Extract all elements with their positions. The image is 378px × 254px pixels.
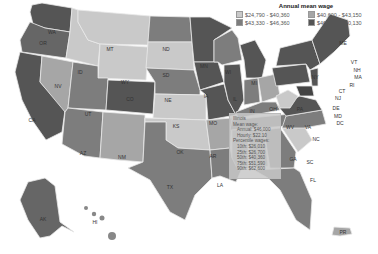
svg-text:CT: CT <box>339 88 346 94</box>
svg-text:PR: PR <box>340 229 347 235</box>
svg-text:NV: NV <box>55 83 63 89</box>
svg-text:CA: CA <box>29 117 37 123</box>
state-ks[interactable] <box>153 94 206 120</box>
svg-text:NM: NM <box>118 154 126 160</box>
legend-swatch-1 <box>236 11 243 18</box>
legend-label-1: $24,790 - $40,360 <box>245 12 290 18</box>
svg-text:IL: IL <box>233 96 237 102</box>
legend-swatch-2 <box>308 11 315 18</box>
svg-text:IA: IA <box>204 93 209 99</box>
svg-text:DE: DE <box>333 105 341 111</box>
svg-text:FL: FL <box>310 177 316 183</box>
svg-text:SC: SC <box>307 159 314 165</box>
svg-text:MT: MT <box>106 46 113 52</box>
svg-text:HI: HI <box>93 219 98 225</box>
us-map: WA OR CA NV ID MT WY UT CO AZ NM ND SD N… <box>0 0 378 254</box>
state-sd[interactable] <box>146 42 194 70</box>
legend-swatch-4 <box>308 19 315 26</box>
legend-label-4: $46,480 - $60,130 <box>317 20 362 26</box>
northeast-callouts: VT NH MA RI CT NJ DE MD DC <box>333 59 363 126</box>
svg-text:WA: WA <box>48 29 57 35</box>
legend-item-1[interactable]: $24,790 - $40,360 <box>236 11 304 18</box>
svg-text:OR: OR <box>39 40 47 46</box>
svg-text:MN: MN <box>200 63 208 69</box>
svg-text:ME: ME <box>339 40 347 46</box>
legend-item-4[interactable]: $46,480 - $60,130 <box>308 19 376 26</box>
svg-text:LA: LA <box>217 182 224 188</box>
legend-label-3: $43,330 - $46,360 <box>245 20 290 26</box>
svg-text:AZ: AZ <box>80 150 86 156</box>
tooltip-p90: 90th: $62,600 <box>233 166 277 172</box>
svg-text:MI: MI <box>251 80 257 86</box>
svg-text:NE: NE <box>165 97 173 103</box>
svg-text:WY: WY <box>121 79 130 85</box>
state-mi[interactable] <box>240 40 266 78</box>
svg-text:NC: NC <box>312 136 320 142</box>
svg-text:MO: MO <box>209 120 217 126</box>
state-nd[interactable] <box>148 16 192 42</box>
svg-text:ND: ND <box>162 46 170 52</box>
svg-text:NH: NH <box>353 67 361 73</box>
svg-text:DC: DC <box>336 120 344 126</box>
svg-text:GA: GA <box>289 156 297 162</box>
svg-text:RI: RI <box>350 82 355 88</box>
legend-label-2: $40,600 - $43,150 <box>317 12 362 18</box>
legend-item-2[interactable]: $40,600 - $43,150 <box>308 11 376 18</box>
svg-text:WV: WV <box>286 124 295 130</box>
legend: Annual mean wage $24,790 - $40,360 $40,6… <box>236 3 376 26</box>
state-hi[interactable] <box>84 206 116 240</box>
svg-text:AK: AK <box>40 216 47 222</box>
svg-text:UT: UT <box>85 111 92 117</box>
legend-title: Annual mean wage <box>236 3 376 9</box>
svg-text:MA: MA <box>354 74 362 80</box>
svg-text:KS: KS <box>173 123 180 129</box>
svg-text:TX: TX <box>167 184 174 190</box>
tooltip-annual: Annual: $46,000 <box>233 127 277 133</box>
svg-text:VT: VT <box>351 59 357 65</box>
svg-text:WI: WI <box>225 69 231 75</box>
svg-text:CO: CO <box>126 96 134 102</box>
svg-text:PA: PA <box>297 106 304 112</box>
state-mt[interactable] <box>78 10 150 45</box>
svg-text:ID: ID <box>78 69 83 75</box>
svg-text:SD: SD <box>163 72 170 78</box>
svg-text:OH: OH <box>269 106 277 112</box>
svg-text:AR: AR <box>210 153 217 159</box>
legend-swatch-3 <box>236 19 243 26</box>
state-md[interactable] <box>296 86 314 96</box>
state-pa[interactable] <box>272 64 310 86</box>
state-ak[interactable] <box>20 178 74 238</box>
legend-item-3[interactable]: $43,330 - $46,360 <box>236 19 304 26</box>
svg-text:VA: VA <box>305 124 312 130</box>
svg-text:NJ: NJ <box>335 95 342 101</box>
svg-text:NY: NY <box>312 74 320 80</box>
svg-text:OK: OK <box>176 149 184 155</box>
svg-text:MD: MD <box>334 113 342 119</box>
state-tooltip: Illinois Mean wage: Annual: $46,000 Hour… <box>229 113 281 179</box>
